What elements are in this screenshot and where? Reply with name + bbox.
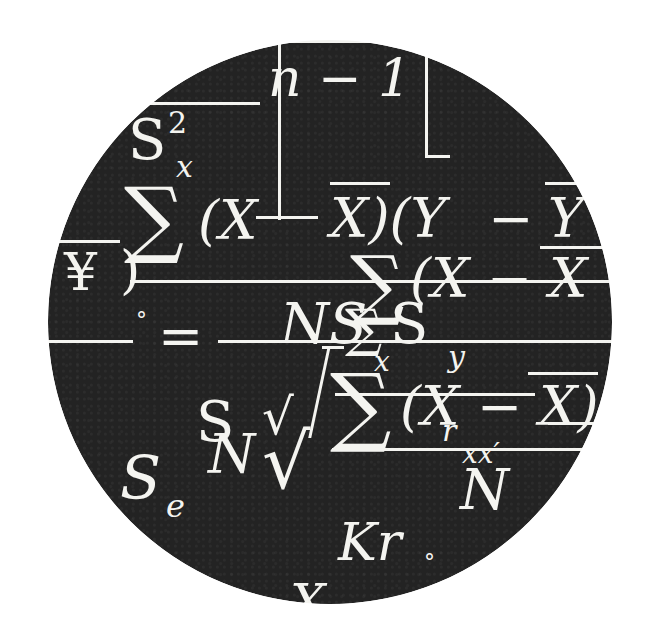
circle-clip-mask <box>0 0 652 622</box>
